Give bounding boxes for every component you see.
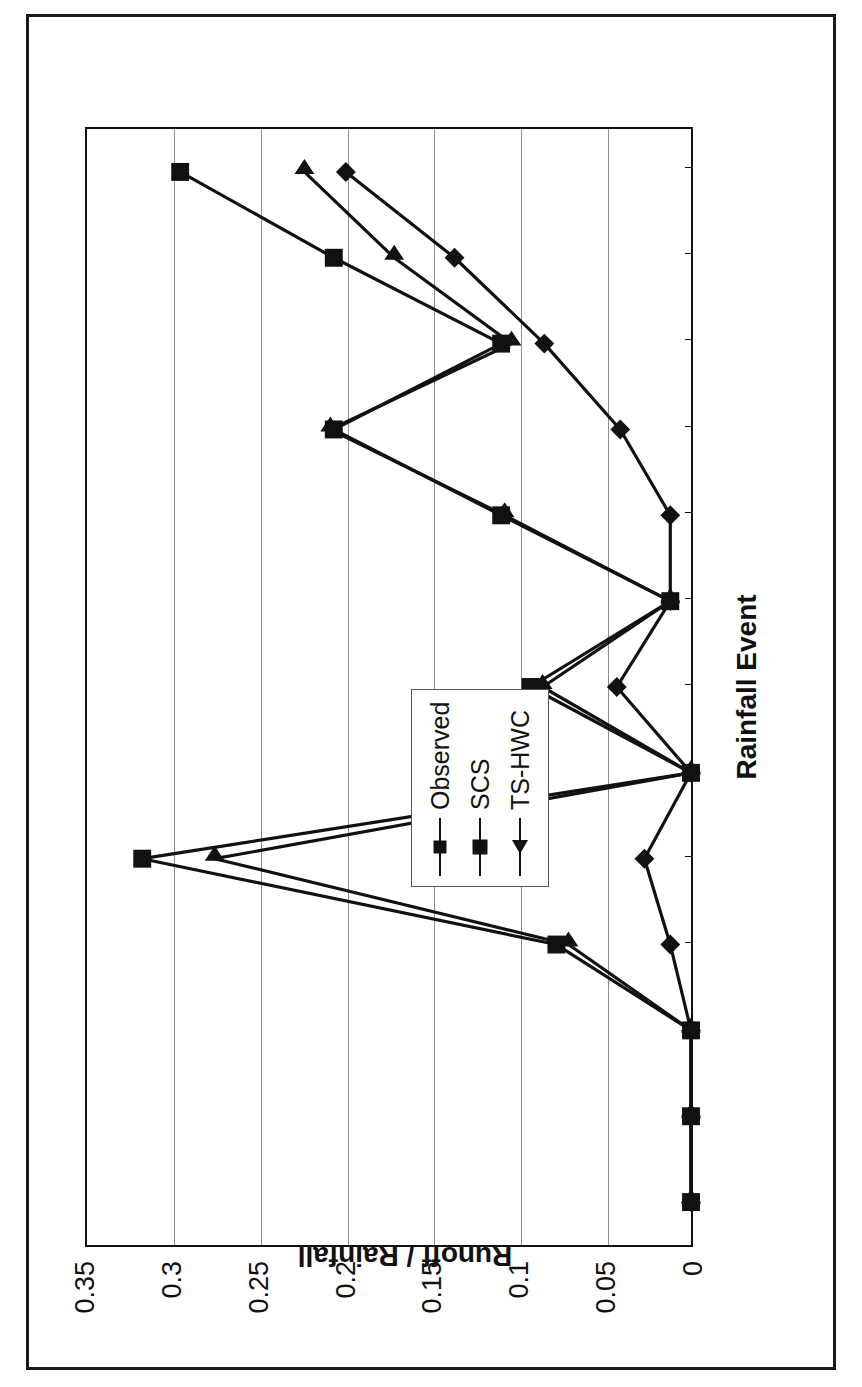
value-axis-tick-label: 0.05 bbox=[591, 1261, 622, 1339]
series-ts-hwc bbox=[205, 158, 701, 1203]
category-axis-title: Rainfall Event bbox=[731, 127, 763, 1247]
data-point-marker bbox=[325, 248, 343, 266]
value-axis-tick-label: 0.1 bbox=[504, 1261, 535, 1339]
legend-item-observed[interactable]: Observed bbox=[420, 700, 460, 876]
value-axis-tick-label: 0.2 bbox=[330, 1261, 361, 1339]
value-axis-tick-label: 0.25 bbox=[243, 1261, 274, 1339]
series-observed bbox=[336, 161, 701, 1211]
value-axis-tick-label: 0.3 bbox=[156, 1261, 187, 1339]
series-layer bbox=[87, 129, 691, 1245]
value-axis-tick-label: 0 bbox=[678, 1261, 709, 1339]
chart-area: Runoff / Rainfall 00.050.10.150.20.250.3… bbox=[51, 49, 811, 1339]
legend-label: SCS bbox=[466, 758, 495, 809]
data-point-marker bbox=[660, 505, 680, 525]
square-marker-icon bbox=[467, 818, 493, 876]
value-axis-tick-label: 0.15 bbox=[417, 1261, 448, 1339]
legend-triangle-icon bbox=[512, 840, 528, 854]
data-point-marker bbox=[660, 934, 680, 954]
data-point-marker bbox=[295, 158, 315, 173]
legend-label: TS-HWC bbox=[506, 710, 535, 810]
value-axis-tick-label: 0.35 bbox=[70, 1261, 101, 1339]
plot-area bbox=[85, 127, 693, 1247]
legend-item-ts-hwc[interactable]: TS-HWC bbox=[500, 700, 540, 876]
legend-item-scs[interactable]: SCS bbox=[460, 700, 500, 876]
rotated-chart-wrapper: Runoff / Rainfall 00.050.10.150.20.250.3… bbox=[0, 0, 862, 1387]
data-point-marker bbox=[634, 848, 654, 868]
data-point-marker bbox=[133, 849, 151, 867]
triangle-marker-icon bbox=[507, 818, 533, 876]
legend-label: Observed bbox=[426, 701, 455, 809]
diamond-marker-icon bbox=[427, 818, 453, 876]
legend-square-icon bbox=[473, 839, 488, 854]
series-line bbox=[346, 171, 691, 1201]
chart-figure: Runoff / Rainfall 00.050.10.150.20.250.3… bbox=[51, 49, 811, 1339]
chart-legend: ObservedSCSTS-HWC bbox=[411, 689, 549, 887]
legend-diamond-icon bbox=[434, 840, 447, 853]
data-point-marker bbox=[171, 162, 189, 180]
